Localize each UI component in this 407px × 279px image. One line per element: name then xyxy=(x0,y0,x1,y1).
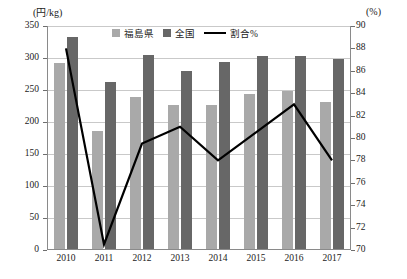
y-axis-left-tick-label: 0 xyxy=(5,245,39,255)
y-axis-right-tick-label: 72 xyxy=(356,223,386,233)
y-axis-left-tick-label: 50 xyxy=(5,213,39,223)
y-axis-right-tick-label: 74 xyxy=(356,200,386,210)
y-axis-left-tick-label: 200 xyxy=(5,117,39,127)
y-axis-right-tick-label: 84 xyxy=(356,88,386,98)
tick-mark xyxy=(43,250,47,251)
tick-mark xyxy=(43,186,47,187)
x-axis-tick-label: 2017 xyxy=(309,253,355,263)
y-axis-left-tick-label: 300 xyxy=(5,53,39,63)
tick-mark xyxy=(351,250,355,251)
plot-frame xyxy=(47,26,351,250)
tick-mark xyxy=(351,71,355,72)
tick-mark xyxy=(351,160,355,161)
tick-mark xyxy=(351,48,355,49)
tick-mark xyxy=(351,116,355,117)
tick-mark xyxy=(43,90,47,91)
y-axis-right-tick-label: 88 xyxy=(356,43,386,53)
tick-mark xyxy=(43,26,47,27)
y-axis-right-tick-label: 86 xyxy=(356,66,386,76)
tick-mark xyxy=(351,228,355,229)
tick-mark xyxy=(351,26,355,27)
y-axis-right-tick-label: 90 xyxy=(356,21,386,31)
y-axis-right-tick-label: 82 xyxy=(356,111,386,121)
y-axis-left-tick-label: 350 xyxy=(5,21,39,31)
y-axis-right-tick-label: 78 xyxy=(356,155,386,165)
y-axis-right-tick-label: 76 xyxy=(356,178,386,188)
y-axis-left-tick-label: 250 xyxy=(5,85,39,95)
y-axis-right-tick-label: 80 xyxy=(356,133,386,143)
tick-mark xyxy=(43,58,47,59)
y2-axis-unit-label: (%) xyxy=(366,6,381,17)
tick-mark xyxy=(43,122,47,123)
tick-mark xyxy=(43,154,47,155)
tick-mark xyxy=(351,205,355,206)
tick-mark xyxy=(43,218,47,219)
plot-area xyxy=(47,26,351,250)
tick-mark xyxy=(351,138,355,139)
tick-mark xyxy=(351,183,355,184)
bar-line-chart: (円/kg) (%) 福島県 全国 割合% 050100150200250300… xyxy=(0,0,407,279)
y-axis-right-tick-label: 70 xyxy=(356,245,386,255)
y-axis-left-tick-label: 150 xyxy=(5,149,39,159)
y-axis-unit-label: (円/kg) xyxy=(33,4,62,19)
y-axis-left-tick-label: 100 xyxy=(5,181,39,191)
tick-mark xyxy=(351,93,355,94)
